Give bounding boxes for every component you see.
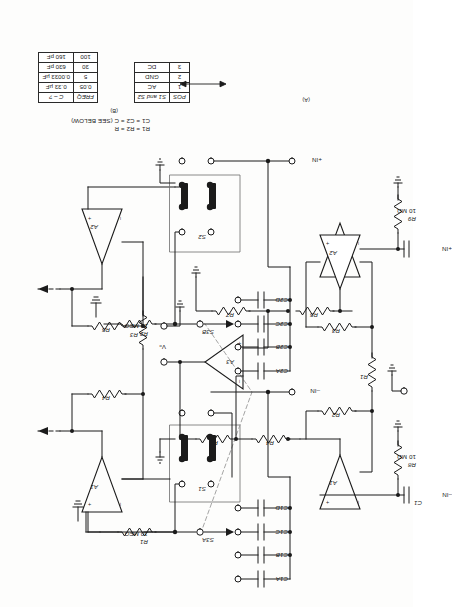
label-b-pos-in: +IN [312, 157, 322, 164]
label-b-r1-value: 10 MEG [125, 531, 148, 538]
label-b-r4: R4 [102, 395, 110, 402]
label-a-a1: A1 [329, 480, 337, 487]
freq-table-header-c: C – ? [39, 93, 74, 103]
table-row: 0.05 0.33 µF [39, 83, 98, 93]
label-cap-c1c: C1C [275, 529, 288, 536]
table-row: 2 GND [134, 73, 189, 83]
label-a-output: Vₒ [159, 344, 166, 351]
label-a-r4: R4 [266, 440, 274, 447]
label-a-c1: C1 [414, 500, 422, 507]
label-switch-s3b: S3B [202, 329, 214, 336]
switch-table-header-sw: S1 and S2 [134, 93, 169, 103]
switch-table-header-pos: POS [170, 93, 190, 103]
label-a-r3: R3 [332, 328, 340, 335]
label-b-neg-in: –IN [310, 388, 320, 395]
label-a-r9: R9 [408, 216, 416, 223]
freq-value-4: 100 [74, 53, 98, 63]
switch-mode-1: AC [134, 83, 169, 93]
label-cap-c2d: C2D [275, 297, 288, 304]
cap-value-1: 0.33 µF [39, 83, 74, 93]
label-b-a2: A2 [90, 224, 98, 231]
opamp-b-a1-plus: + [86, 502, 92, 506]
svg-text:–: – [355, 500, 361, 504]
svg-text:+: + [236, 341, 242, 345]
svg-text:+: + [86, 216, 92, 220]
switch-mode-2: GND [134, 73, 169, 83]
label-switch-s3a: S3A [202, 537, 214, 544]
label-a-r2: R2 [332, 412, 340, 419]
freq-value-3: 30 [74, 63, 98, 73]
label-cap-c2b: C2B [276, 344, 288, 351]
cap-value-2: 0.0033 µF [39, 73, 74, 83]
label-a-a2: A2 [329, 250, 337, 257]
label-a-r6: R6 [210, 440, 218, 447]
switch-pos-2: 2 [170, 73, 190, 83]
label-b-r5: R5 [102, 327, 110, 334]
figure-label-a: (A) [302, 97, 310, 103]
cap-value-4: 160 pF [39, 53, 74, 63]
label-cap-c2c: C2C [275, 321, 288, 328]
label-b-a1: A1 [90, 484, 98, 491]
label-cap-c1a: C1A [276, 576, 288, 583]
label-cap-c2a: C2A [276, 368, 288, 375]
svg-text:–: – [117, 502, 123, 506]
label-b-r2-value: 10 MEG [125, 323, 148, 330]
label-a-r8-value: 10 MΩ [397, 454, 416, 461]
freq-table-header-freq: FREQ [74, 93, 98, 103]
table-row: 3 DC [134, 63, 189, 73]
figure-label-b: (B) [110, 108, 118, 114]
switch-mode-3: DC [134, 63, 169, 73]
label-b-r3: R3 [130, 332, 138, 339]
label-b-r1: R1 [140, 539, 148, 546]
label-a-r7: R7 [226, 312, 234, 319]
label-switch-s2: S2 [198, 234, 206, 241]
label-a-r5: R5 [310, 312, 318, 319]
label-a-r9-value: 10 MΩ [397, 208, 416, 215]
label-a-a3: A3 [226, 359, 234, 366]
svg-text:–: – [117, 216, 123, 220]
svg-text:+: + [324, 241, 330, 245]
svg-text:–: – [236, 379, 242, 383]
switch-pos-3: 3 [170, 63, 190, 73]
label-a-r8: R8 [408, 462, 416, 469]
cap-value-3: 630 pF [39, 63, 74, 73]
freq-value-1: 0.05 [74, 83, 98, 93]
label-a-neg-in: –IN [442, 492, 452, 499]
table-row: 100 160 pF [39, 53, 98, 63]
switch-position-table: POS S1 and S2 1 AC 2 GND 3 DC [134, 62, 190, 103]
svg-text:+: + [324, 500, 330, 504]
table-row: 5 0.0033 µF [39, 73, 98, 83]
table-row: 30 630 pF [39, 63, 98, 73]
svg-text:–: – [355, 241, 361, 245]
label-cap-c1d: C1D [275, 505, 288, 512]
label-a-r1: R1 [360, 374, 368, 381]
label-switch-s1: S1 [198, 486, 206, 493]
label-cap-c1b: C1B [276, 552, 288, 559]
switch-pos-1: 1 [170, 83, 190, 93]
label-a-pos-in: +IN [442, 246, 452, 253]
freq-value-2: 5 [74, 73, 98, 83]
note-line-1: R1 = R2 = R [115, 126, 151, 133]
note-line-2: C1 = C2 = C (SEE BELOW) [71, 118, 150, 125]
frequency-capacitance-table: FREQ C – ? 0.05 0.33 µF 5 0.0033 µF 30 6… [38, 52, 98, 103]
table-row: 1 AC [134, 83, 189, 93]
label-b-r2: R2 [140, 331, 148, 338]
